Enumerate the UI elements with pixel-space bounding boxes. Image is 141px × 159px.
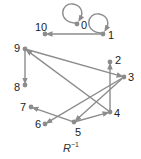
caption-superscript: −1 — [71, 141, 79, 148]
relation-digraph — [0, 0, 141, 159]
edge-1-to-1 — [89, 14, 108, 33]
node-label-0: 0 — [81, 20, 87, 31]
node-7 — [29, 105, 34, 110]
node-3 — [122, 75, 127, 80]
node-5 — [72, 120, 77, 125]
node-8 — [23, 83, 28, 88]
node-4 — [108, 110, 113, 115]
node-0 — [75, 22, 80, 27]
diagram-caption: R−1 — [63, 141, 79, 154]
node-label-2: 2 — [115, 55, 121, 66]
caption-base: R — [63, 142, 71, 154]
node-label-10: 10 — [35, 22, 47, 33]
node-label-6: 6 — [35, 119, 41, 130]
edge-5-to-4 — [76, 113, 106, 121]
edge-9-to-3 — [27, 50, 120, 76]
node-9 — [23, 47, 28, 52]
node-label-8: 8 — [14, 82, 20, 93]
node-label-3: 3 — [128, 72, 134, 83]
node-label-5: 5 — [75, 127, 81, 138]
node-label-7: 7 — [20, 102, 26, 113]
node-label-1: 1 — [108, 30, 114, 41]
edge-0-to-0 — [63, 4, 82, 23]
node-2 — [108, 60, 113, 65]
node-1 — [101, 32, 106, 37]
node-6 — [43, 122, 48, 127]
edge-3-to-6 — [48, 78, 122, 122]
node-label-4: 4 — [114, 108, 120, 119]
node-label-9: 9 — [14, 43, 20, 54]
